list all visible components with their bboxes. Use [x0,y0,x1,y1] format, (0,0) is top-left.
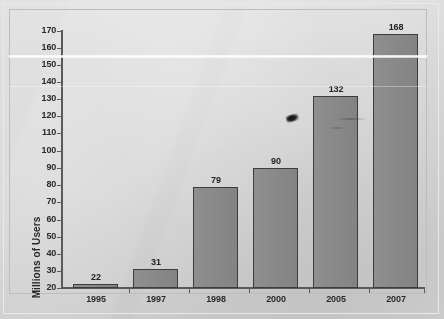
y-tick-60: 60 [16,215,56,225]
bar-2007[interactable] [373,34,418,288]
bar-value-label-2000: 90 [246,156,306,166]
y-tick-130: 130 [16,94,56,104]
bar-value-label-1997: 31 [126,257,186,267]
bar-1995[interactable] [73,284,118,288]
y-tick-100: 100 [16,146,56,156]
chart-ink-layer: Millions of Users 170 160 150 140 130 12… [0,0,444,319]
bar-value-label-2007: 168 [366,22,426,32]
y-tick-170: 170 [16,26,56,36]
y-tick-40: 40 [16,249,56,259]
y-tick-110: 110 [16,128,56,138]
x-axis-label-2005: 2005 [306,294,366,304]
y-tick-20: 20 [16,283,56,293]
y-axis-line [61,30,63,289]
y-tick-30: 30 [16,266,56,276]
bar-2005[interactable] [313,96,358,288]
x-axis-label-2000: 2000 [246,294,306,304]
bar-1997[interactable] [133,269,178,288]
y-tick-150: 150 [16,60,56,70]
y-tick-90: 90 [16,163,56,173]
bar-value-label-1995: 22 [66,272,126,282]
bar-2000[interactable] [253,168,298,288]
y-tick-70: 70 [16,197,56,207]
y-tick-50: 50 [16,232,56,242]
bar-1998[interactable] [193,187,238,288]
x-axis-label-1995: 1995 [66,294,126,304]
scanned-chart-page: Millions of Users 170 160 150 140 130 12… [0,0,444,319]
y-tick-80: 80 [16,180,56,190]
x-axis-label-2007: 2007 [366,294,426,304]
y-tick-140: 140 [16,77,56,87]
bar-value-label-1998: 79 [186,175,246,185]
x-axis-label-1998: 1998 [186,294,246,304]
bar-value-label-2005: 132 [306,84,366,94]
x-axis-label-1997: 1997 [126,294,186,304]
y-tick-160: 160 [16,43,56,53]
y-tick-120: 120 [16,111,56,121]
